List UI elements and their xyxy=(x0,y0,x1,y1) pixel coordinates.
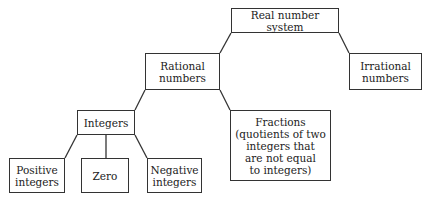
node-label: Zero xyxy=(93,170,118,182)
node-fractions: Fractions (quotients of two integers tha… xyxy=(230,110,331,181)
edge-rational-integers xyxy=(135,90,145,110)
node-label: Positive xyxy=(15,164,59,176)
edge-real-rational xyxy=(220,33,231,53)
node-label: Irrational xyxy=(360,60,411,72)
node-label: Rational xyxy=(159,60,206,72)
node-label: (quotients of two xyxy=(235,128,325,140)
node-positive-integers: Positive integers xyxy=(9,158,65,193)
edge-integers-positive xyxy=(65,135,77,158)
node-integers: Integers xyxy=(77,110,135,135)
edge-rational-fractions xyxy=(220,90,230,110)
node-label: numbers xyxy=(159,72,206,84)
node-label: integers xyxy=(15,176,59,188)
node-label: numbers xyxy=(360,72,411,84)
edge-integers-negative xyxy=(135,135,147,158)
node-label: integers that xyxy=(235,140,325,152)
node-negative-integers: Negative integers xyxy=(147,158,202,193)
node-real-number-system: Real number system xyxy=(231,8,339,33)
node-label: Integers xyxy=(84,117,129,129)
node-irrational-numbers: Irrational numbers xyxy=(349,53,422,90)
edge-real-irrational xyxy=(339,33,349,53)
node-label: Fractions xyxy=(235,116,325,128)
node-label: Real number system xyxy=(234,9,336,33)
node-label: are not equal xyxy=(235,152,325,164)
node-label: integers xyxy=(150,176,198,188)
node-zero: Zero xyxy=(81,158,129,193)
node-rational-numbers: Rational numbers xyxy=(145,53,220,90)
node-label: to integers) xyxy=(235,164,325,176)
node-label: Negative xyxy=(150,164,198,176)
